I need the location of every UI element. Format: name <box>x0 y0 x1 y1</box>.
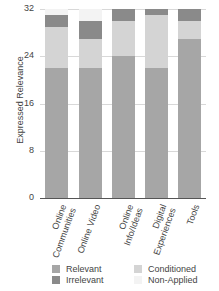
legend-item-relevant: Relevant <box>52 264 102 274</box>
bar-online-communities <box>45 0 68 198</box>
x-axis-line <box>40 198 206 199</box>
bar-digital-experiences <box>145 0 168 198</box>
bar-segment-irrelevant <box>145 9 168 15</box>
bar-segment-relevant <box>45 68 68 198</box>
bar-segment-relevant <box>79 68 102 198</box>
bar-segment-irrelevant <box>112 9 135 21</box>
legend-item-conditioned: Conditioned <box>134 264 196 274</box>
legend-label: Irrelevant <box>66 275 104 285</box>
legend-label: Conditioned <box>148 264 196 274</box>
bar-segment-irrelevant <box>45 15 68 27</box>
y-tick-label: 24 <box>16 50 34 60</box>
bar-segment-conditioned <box>45 27 68 68</box>
bar-segment-relevant <box>178 39 201 198</box>
y-tick-label: 32 <box>16 3 34 13</box>
bar-segment-relevant <box>112 56 135 198</box>
bar-segment-irrelevant <box>178 9 201 21</box>
bar-segment-conditioned <box>145 15 168 68</box>
y-tick-label: 0 <box>16 192 34 202</box>
x-tick-label: OnlineCommunities <box>38 203 77 266</box>
bar-tools <box>178 0 201 198</box>
bar-segment-non-applied <box>79 9 102 21</box>
legend-item-non-applied: Non-Applied <box>134 275 198 285</box>
bar-online-info-ideas <box>112 0 135 198</box>
legend-label: Relevant <box>66 264 102 274</box>
relevant-swatch <box>52 265 60 273</box>
bar-segment-conditioned <box>112 21 135 56</box>
y-tick-label: 8 <box>16 145 34 155</box>
bar-segment-conditioned <box>178 21 201 39</box>
bar-segment-conditioned <box>79 39 102 69</box>
conditioned-swatch <box>134 265 142 273</box>
non-applied-swatch <box>134 276 142 284</box>
bar-segment-relevant <box>145 68 168 198</box>
y-tick-label: 16 <box>16 98 34 108</box>
bar-segment-irrelevant <box>79 21 102 39</box>
legend-item-irrelevant: Irrelevant <box>52 275 104 285</box>
irrelevant-swatch <box>52 276 60 284</box>
bar-segment-non-applied <box>45 9 68 15</box>
legend-label: Non-Applied <box>148 275 198 285</box>
bar-online-video <box>79 0 102 198</box>
